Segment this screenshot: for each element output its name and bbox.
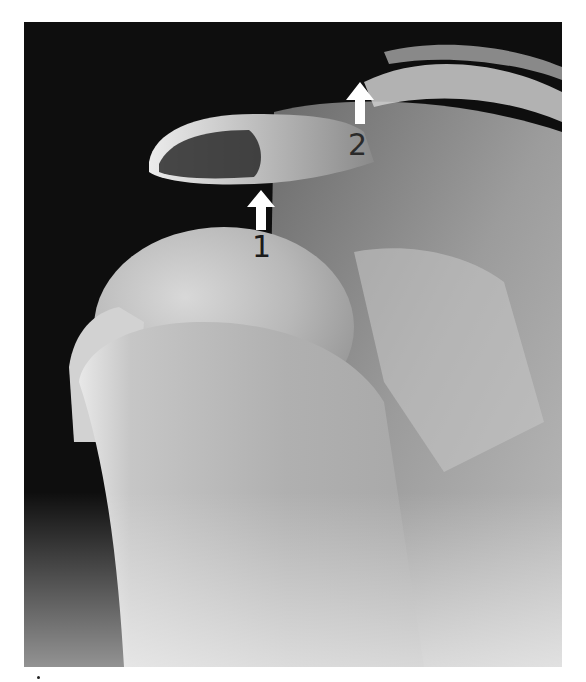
annotation-label-2: 2 [348,130,367,160]
arrow-up-icon [246,190,276,230]
print-speck [37,676,40,679]
xray-rendering [24,22,562,667]
xray-image [24,22,562,667]
annotation-label-1: 1 [252,232,271,262]
arrow-up-icon [345,82,375,124]
